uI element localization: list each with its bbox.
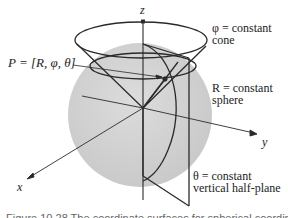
cone-annotation: φ = constant cone bbox=[212, 22, 272, 46]
z-axis-label: z bbox=[140, 4, 145, 16]
sphere-annotation-line2: sphere bbox=[212, 94, 273, 106]
cone-annotation-line2: cone bbox=[212, 34, 272, 46]
y-axis-arrow-icon bbox=[250, 130, 257, 136]
point-p bbox=[163, 77, 167, 81]
x-axis-arrow-icon bbox=[27, 173, 34, 179]
halfplane-annotation: θ = constant vertical half-plane bbox=[193, 170, 281, 194]
halfplane-annotation-line2: vertical half-plane bbox=[193, 182, 281, 194]
y-axis-label: y bbox=[262, 136, 267, 148]
sphere-annotation: R = constant sphere bbox=[212, 82, 273, 106]
figure-caption: Figure 10.28 The coordinate surfaces for… bbox=[6, 212, 288, 218]
x-axis-label: x bbox=[17, 181, 22, 193]
point-p-label: P = [R, φ, θ] bbox=[8, 57, 76, 69]
z-axis-tip bbox=[142, 20, 145, 23]
